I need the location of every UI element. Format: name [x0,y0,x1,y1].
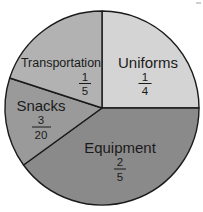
denominator-snacks: 20 [35,129,48,141]
slice-label-snacks: Snacks [16,97,65,114]
pie-chart-svg: Uniforms 1 4 Transportation 1 5 Snacks 3… [0,0,203,212]
pie-chart: Uniforms 1 4 Transportation 1 5 Snacks 3… [0,0,203,212]
numerator-uniforms: 1 [142,71,148,83]
slice-label-equipment: Equipment [84,139,157,156]
slice-label-uniforms: Uniforms [118,54,178,71]
numerator-snacks: 3 [38,114,44,126]
slice-label-transportation: Transportation [21,56,101,70]
denominator-uniforms: 4 [142,85,149,97]
numerator-equipment: 2 [117,156,123,168]
denominator-equipment: 5 [117,171,123,183]
corner-artifact [196,2,201,4]
numerator-transportation: 1 [82,71,88,83]
denominator-transportation: 5 [82,85,88,97]
